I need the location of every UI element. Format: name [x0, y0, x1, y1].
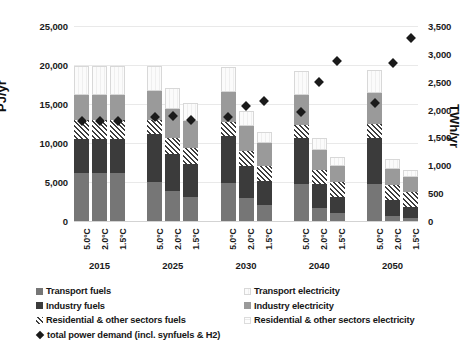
x-axis-scenario-label: 2.0°C: [393, 228, 403, 249]
stacked-bar[interactable]: [110, 66, 125, 221]
bar-segment-transport_electricity: [403, 170, 418, 178]
bar-slot[interactable]: [312, 26, 327, 221]
bar-group-2050: [367, 26, 418, 221]
y-axis-right-tick-label: 3,000: [424, 48, 475, 59]
stacked-bar[interactable]: [330, 157, 345, 221]
bar-segment-industry_electricity: [403, 177, 418, 192]
legend-item[interactable]: Industry fuels: [36, 299, 220, 314]
x-axis-scenario-label: 5.0°C: [82, 228, 92, 249]
resother-electricity-swatch-icon: [244, 317, 251, 324]
stacked-bar[interactable]: [385, 159, 400, 221]
bar-segment-industry_fuels: [183, 164, 198, 197]
legend-item[interactable]: Transport electricity: [244, 284, 415, 299]
x-axis-labels: 5.0°C2.0°C1.5°C20155.0°C2.0°C1.5°C20255.…: [74, 221, 418, 277]
stacked-bar[interactable]: [165, 88, 180, 221]
stacked-bar[interactable]: [221, 67, 236, 221]
bar-segment-transport_electricity: [312, 138, 327, 150]
bar-segment-transport_fuels: [294, 184, 309, 221]
x-axis-group-2050: 5.0°C2.0°C1.5°C2050: [367, 221, 418, 277]
bar-groups: [74, 26, 418, 221]
x-axis-scenario-label: 2.0°C: [100, 228, 110, 249]
bar-segment-industry_fuels: [92, 139, 107, 173]
stacked-bar[interactable]: [367, 70, 382, 221]
bar-segment-industry_fuels: [257, 181, 272, 204]
y-axis-right-tick-label: 2,500: [424, 76, 475, 87]
y-axis-right-tick-label: 3,500: [424, 21, 475, 32]
legend-item[interactable]: Industry electricity: [244, 299, 415, 314]
bar-slot[interactable]: [257, 26, 272, 221]
stacked-bar[interactable]: [403, 170, 418, 221]
bar-slot[interactable]: [385, 26, 400, 221]
stacked-bar[interactable]: [257, 132, 272, 221]
bar-segment-transport_electricity: [385, 159, 400, 169]
bar-slot[interactable]: [221, 26, 236, 221]
bar-slot[interactable]: [165, 26, 180, 221]
x-axis-scenario-label: 1.5°C: [411, 228, 421, 249]
x-axis-scenario-label: 1.5°C: [118, 228, 128, 249]
stacked-bar[interactable]: [294, 70, 309, 221]
y-axis-left-tick-label: 20,000: [0, 60, 68, 71]
total-power-demand-marker-icon: [36, 331, 44, 339]
bar-segment-transport_fuels: [367, 184, 382, 221]
y-axis-left-tick-label: 5,000: [0, 177, 68, 188]
bar-segment-resother_fuels: [403, 192, 418, 207]
bar-segment-transport_fuels: [165, 191, 180, 221]
total-power-demand-marker: [241, 101, 251, 111]
bar-slot[interactable]: [92, 26, 107, 221]
bar-segment-transport_fuels: [74, 173, 89, 221]
x-axis-group-2015: 5.0°C2.0°C1.5°C2015: [74, 221, 125, 277]
legend-label: Residential & other sectors electricity: [254, 315, 415, 325]
stacked-bar[interactable]: [74, 66, 89, 221]
stacked-bar[interactable]: [312, 138, 327, 221]
x-axis-group-2025: 5.0°C2.0°C1.5°C2025: [147, 221, 198, 277]
legend-item[interactable]: Residential & other sectors fuels: [36, 313, 220, 328]
legend-label: Transport electricity: [254, 286, 340, 296]
bar-segment-industry_electricity: [239, 126, 254, 151]
x-axis-year-label: 2015: [74, 260, 125, 271]
y-axis-left-title: PJ/yr: [0, 80, 9, 112]
x-axis-scenario-label: 1.5°C: [337, 228, 347, 249]
stacked-bar[interactable]: [92, 66, 107, 221]
bar-segment-resother_fuels: [257, 166, 272, 182]
bar-slot[interactable]: [147, 26, 162, 221]
bar-slot[interactable]: [403, 26, 418, 221]
total-power-demand-marker: [314, 77, 324, 87]
bar-slot[interactable]: [239, 26, 254, 221]
x-axis-year-label: 2030: [221, 260, 272, 271]
bar-slot[interactable]: [110, 26, 125, 221]
legend-label: Residential & other sectors fuels: [46, 315, 186, 325]
bar-slot[interactable]: [330, 26, 345, 221]
total-power-demand-marker: [332, 56, 342, 66]
bar-slot[interactable]: [183, 26, 198, 221]
bar-segment-industry_electricity: [385, 169, 400, 185]
x-axis-scenario-label: 1.5°C: [264, 228, 274, 249]
x-axis-scenario-label: 5.0°C: [228, 228, 238, 249]
stacked-bar[interactable]: [239, 111, 254, 221]
legend-item[interactable]: Transport fuels: [36, 284, 220, 299]
legend-item[interactable]: Residential & other sectors electricity: [244, 313, 415, 328]
bar-segment-transport_electricity: [110, 66, 125, 95]
bar-group-2025: [147, 26, 198, 221]
x-axis-year-label: 2050: [367, 260, 418, 271]
y-axis-right-title: TWh/yr: [447, 104, 462, 148]
bar-segment-resother_fuels: [221, 122, 236, 136]
bar-segment-transport_fuels: [239, 198, 254, 221]
bar-segment-industry_electricity: [312, 150, 327, 170]
bar-slot[interactable]: [367, 26, 382, 221]
stacked-bar[interactable]: [147, 66, 162, 221]
chart-container: 05,00010,00015,00020,00025,000 05001,000…: [0, 0, 475, 349]
bar-slot[interactable]: [294, 26, 309, 221]
bar-segment-resother_fuels: [330, 182, 345, 197]
legend-label: total power demand (incl. synfuels & H2): [47, 330, 220, 340]
bar-slot[interactable]: [74, 26, 89, 221]
bar-segment-industry_electricity: [330, 166, 345, 182]
bar-segment-resother_fuels: [367, 124, 382, 137]
y-axis-left-tick-label: 15,000: [0, 99, 68, 110]
x-axis-group-2030: 5.0°C2.0°C1.5°C2030: [221, 221, 272, 277]
legend-item[interactable]: total power demand (incl. synfuels & H2): [36, 328, 220, 343]
total-power-demand-marker: [259, 96, 269, 106]
bar-segment-transport_fuels: [110, 173, 125, 221]
bar-segment-resother_fuels: [183, 148, 198, 164]
x-axis-scenario-label: 5.0°C: [155, 228, 165, 249]
bar-segment-industry_fuels: [165, 154, 180, 191]
